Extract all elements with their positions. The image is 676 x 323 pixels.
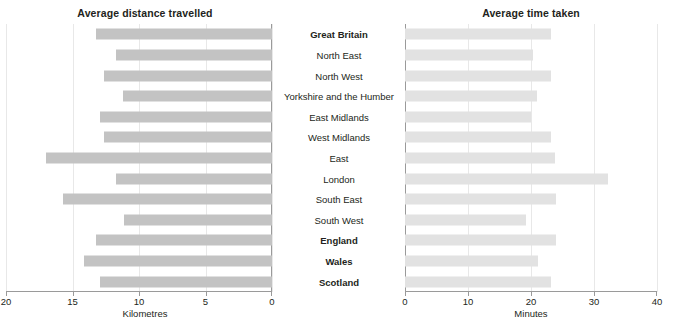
- bar: [100, 276, 272, 287]
- bar: [96, 29, 272, 40]
- bar-row: [6, 148, 272, 169]
- bar: [405, 49, 533, 60]
- bar: [405, 214, 526, 225]
- category-label: Yorkshire and the Humber: [272, 91, 406, 102]
- bar: [104, 70, 272, 81]
- bar-row: [6, 251, 272, 272]
- category-label: London: [272, 173, 406, 184]
- x-axis-tick-label: 40: [652, 296, 663, 307]
- category-label-column: Great BritainNorth EastNorth WestYorkshi…: [272, 24, 406, 292]
- bar: [405, 194, 556, 205]
- bar: [84, 256, 272, 267]
- bar-row: [405, 65, 657, 86]
- x-axis-tick-label: 0: [269, 296, 274, 307]
- bar: [116, 49, 272, 60]
- bar-row: [6, 106, 272, 127]
- dual-bar-chart-figure: Average distance travelled Average time …: [0, 0, 676, 323]
- bar-row: [6, 65, 272, 86]
- right-chart-title: Average time taken: [386, 7, 676, 19]
- bar: [405, 235, 556, 246]
- category-label: North West: [272, 70, 406, 81]
- left-plot-area: [6, 24, 272, 292]
- bar: [96, 235, 272, 246]
- bar: [405, 152, 555, 163]
- left-axis-caption: Kilometres: [0, 308, 290, 319]
- category-label: South East: [272, 194, 406, 205]
- bar: [405, 111, 531, 122]
- bar-row: [405, 127, 657, 148]
- bar: [46, 152, 272, 163]
- category-label: Great Britain: [272, 29, 406, 40]
- category-label: North East: [272, 49, 406, 60]
- bar-row: [6, 230, 272, 251]
- category-label: England: [272, 235, 406, 246]
- bar: [405, 276, 551, 287]
- bar-row: [6, 86, 272, 107]
- bar: [100, 111, 272, 122]
- bar-row: [6, 45, 272, 66]
- bar: [405, 70, 551, 81]
- x-axis-tick-label: 30: [589, 296, 600, 307]
- bar-row: [405, 271, 657, 292]
- bar-row: [6, 127, 272, 148]
- bar: [405, 173, 608, 184]
- bar: [405, 91, 537, 102]
- bar: [405, 29, 551, 40]
- x-axis-tick-label: 20: [526, 296, 537, 307]
- category-label: Scotland: [272, 276, 406, 287]
- bar-row: [6, 24, 272, 45]
- bar: [124, 214, 272, 225]
- bar-row: [6, 210, 272, 231]
- bar-row: [405, 148, 657, 169]
- right-axis-caption: Minutes: [386, 308, 676, 319]
- category-label: Wales: [272, 256, 406, 267]
- bar-row: [405, 189, 657, 210]
- category-label: East: [272, 153, 406, 164]
- bar: [63, 194, 272, 205]
- bar: [123, 91, 272, 102]
- category-label: East Midlands: [272, 111, 406, 122]
- x-axis-tick-label: 20: [1, 296, 12, 307]
- x-axis-tick-label: 15: [67, 296, 78, 307]
- gridline: [657, 24, 658, 292]
- x-axis-tick-label: 10: [463, 296, 474, 307]
- bar: [116, 173, 272, 184]
- x-axis-tick-label: 5: [203, 296, 208, 307]
- bar: [104, 132, 272, 143]
- x-axis-tick-label: 0: [402, 296, 407, 307]
- category-label: South West: [272, 214, 406, 225]
- bar-row: [405, 251, 657, 272]
- right-plot-area: [405, 24, 657, 292]
- bar: [405, 256, 538, 267]
- bar-row: [405, 24, 657, 45]
- category-label: West Midlands: [272, 132, 406, 143]
- bar: [405, 132, 551, 143]
- bar-row: [405, 210, 657, 231]
- bar-row: [405, 106, 657, 127]
- left-chart-title: Average distance travelled: [0, 7, 290, 19]
- bar-row: [6, 271, 272, 292]
- bar-row: [405, 86, 657, 107]
- bar-row: [6, 189, 272, 210]
- bar-row: [405, 45, 657, 66]
- bar-row: [6, 168, 272, 189]
- x-axis-tick-label: 10: [134, 296, 145, 307]
- bar-row: [405, 168, 657, 189]
- bar-row: [405, 230, 657, 251]
